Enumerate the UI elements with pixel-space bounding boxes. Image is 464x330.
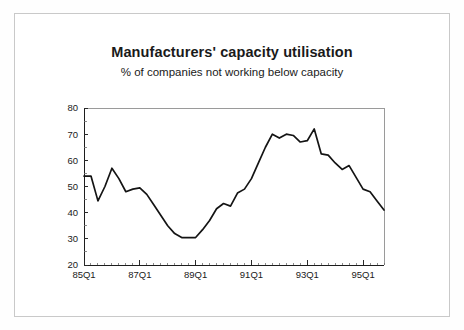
- y-axis-tick-label: 50: [67, 181, 78, 192]
- x-axis-tick-label: 93Q1: [296, 269, 319, 280]
- x-axis-tick-label: 85Q1: [72, 269, 95, 280]
- y-axis-labels: 20304050607080: [67, 102, 78, 270]
- y-axis-tick-label: 70: [67, 129, 78, 140]
- y-axis-tick-label: 80: [67, 102, 78, 113]
- data-series-line: [84, 129, 384, 238]
- y-axis-tick-label: 40: [67, 207, 78, 218]
- x-axis-tick-label: 95Q1: [351, 269, 374, 280]
- x-axis-tick-label: 89Q1: [184, 269, 207, 280]
- y-axis-tick-label: 60: [67, 155, 78, 166]
- y-axis-tick-label: 30: [67, 233, 78, 244]
- x-axis-tick-label: 91Q1: [240, 269, 263, 280]
- capacity-utilisation-line-chart: 20304050607080 85Q187Q189Q191Q193Q195Q1: [0, 0, 464, 330]
- y-axis-ticks: [84, 108, 88, 265]
- chart-plot-area: 20304050607080 85Q187Q189Q191Q193Q195Q1: [0, 0, 464, 330]
- x-axis-labels: 85Q187Q189Q191Q193Q195Q1: [72, 269, 374, 280]
- x-axis-ticks: [84, 260, 384, 265]
- scanned-page: Manufacturers' capacity utilisation % of…: [0, 0, 464, 330]
- x-axis-tick-label: 87Q1: [128, 269, 151, 280]
- plot-frame: [84, 108, 384, 265]
